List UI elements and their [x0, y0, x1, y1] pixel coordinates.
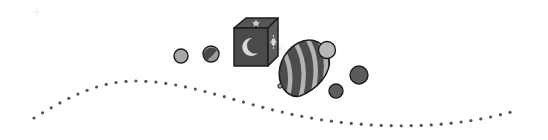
sparkle-icon [33, 8, 41, 16]
wave-dot [489, 115, 492, 118]
wave-dot [469, 119, 472, 122]
wave-dot [499, 113, 502, 116]
toys-divider-illustration [0, 0, 548, 140]
wave-dot [76, 93, 79, 96]
wave-dot [380, 124, 383, 127]
wave-dot [134, 79, 137, 82]
star-moon-sun-cube-icon [234, 18, 289, 66]
wave-dot [261, 106, 264, 109]
wave-dot [194, 88, 197, 91]
wave-dot [223, 95, 226, 98]
wave-dot [440, 123, 443, 126]
wave-dot [430, 123, 433, 126]
light-ball-icon [319, 42, 336, 59]
wave-dot [105, 83, 108, 86]
wave-dot [330, 120, 333, 123]
wave-dot [242, 101, 245, 104]
small-ball-icon [174, 49, 188, 63]
wave-dot [508, 111, 511, 114]
wave-dot [232, 98, 235, 101]
wave-dot [86, 89, 89, 92]
wave-dot [320, 118, 323, 121]
wave-dot [479, 117, 482, 120]
dark-ball-right-icon [350, 66, 368, 84]
wave-dot [50, 106, 53, 109]
wave-dot [340, 121, 343, 124]
wave-dot [95, 85, 98, 88]
wave-dot [290, 113, 293, 116]
wave-dot [203, 90, 206, 93]
wave-dot [350, 122, 353, 125]
wave-dot [32, 116, 35, 119]
dark-ball-bottom-icon [329, 84, 343, 98]
wave-dot [370, 123, 373, 126]
wave-dot [184, 85, 187, 88]
wave-dot [460, 120, 463, 123]
wave-dot [390, 124, 393, 127]
dotted-wave-line [32, 79, 511, 127]
wave-dot [400, 124, 403, 127]
wave-dot [310, 117, 313, 120]
wave-dot [174, 83, 177, 86]
wave-dot [410, 124, 413, 127]
wave-dot [252, 103, 255, 106]
wave-dot [420, 124, 423, 127]
wave-dot [58, 101, 61, 104]
wave-dot [271, 108, 274, 111]
wave-dot [281, 111, 284, 114]
wave-dot [164, 82, 167, 85]
wave-dot [360, 123, 363, 126]
wave-dot [154, 81, 157, 84]
wave-dot [450, 122, 453, 125]
wave-dot [114, 81, 117, 84]
wave-dot [67, 97, 70, 100]
wave-dot [144, 80, 147, 83]
wave-dot [213, 93, 216, 96]
wave-dot [300, 115, 303, 118]
wave-dot [124, 80, 127, 83]
wave-dot [41, 111, 44, 114]
